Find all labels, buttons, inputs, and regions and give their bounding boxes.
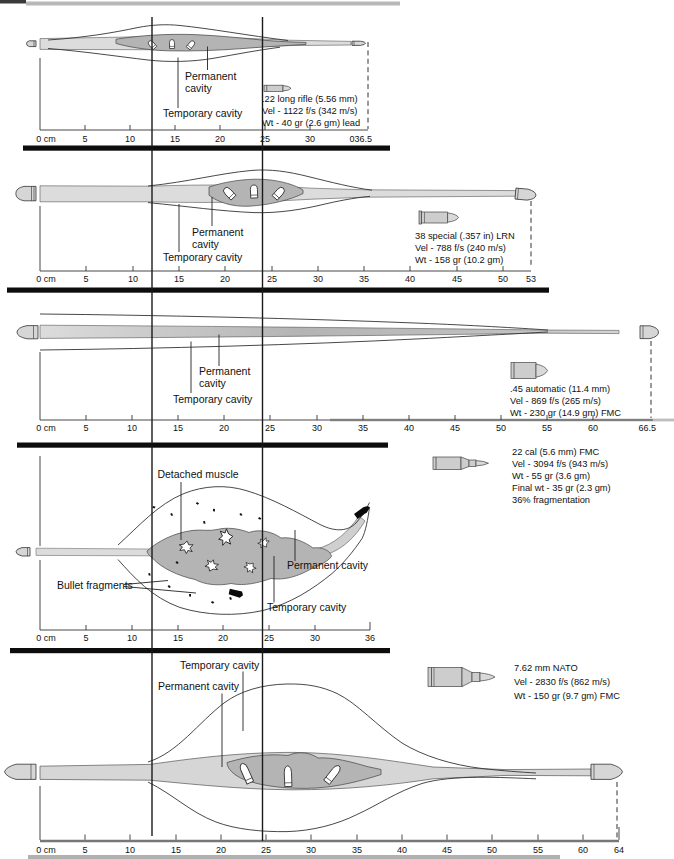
tick-label: 15 (173, 633, 183, 643)
tick-label: 0 cm (36, 274, 56, 284)
tick-label: 10 (125, 134, 135, 144)
tick-label: 20 (218, 633, 228, 643)
tick-label: 36 (365, 633, 375, 643)
tick-label: 25 (264, 633, 274, 643)
tick-label: 40 (397, 845, 407, 855)
caption-line: Final wt - 35 gr (2.3 gm) (512, 483, 611, 493)
permanent-cavity-label: cavity (192, 238, 220, 250)
tick-label: 25 (260, 134, 270, 144)
tick-label: 20 (216, 845, 226, 855)
caption-line: Vel - 869 f/s (265 m/s) (510, 396, 601, 406)
caption-line: Wt - 230 gr (14.9 gm) FMC (510, 408, 621, 418)
permanent-cavity-label: Permanent cavity (287, 559, 369, 571)
exit-bullet-icon (591, 764, 623, 779)
tick-label: 0 cm (36, 845, 56, 855)
scale-axis (40, 786, 619, 841)
tick-label: 5 (82, 134, 87, 144)
permanent-cavity-label: Permanent (192, 226, 243, 238)
tick-label: 10 (128, 274, 138, 284)
panel-separator-bar (17, 443, 388, 448)
tick-label: 66.5 (638, 423, 656, 433)
caption-line: Vel - 788 f/s (240 m/s) (415, 243, 506, 253)
tick-label: 60 (578, 845, 588, 855)
tick-label: 25 (267, 274, 277, 284)
cartridge-223-icon (433, 457, 489, 470)
exit-bullet-icon (515, 188, 536, 201)
tick-label: 50 (487, 845, 497, 855)
tick-label: 50 (496, 423, 506, 433)
caption-line: Wt - 40 gr (2.6 gm) lead (262, 118, 360, 128)
temporary-cavity-label: Temporary cavity (163, 107, 243, 119)
tick-label: 5 (82, 845, 87, 855)
tick-label: 45 (452, 274, 462, 284)
tick-label: 20 (220, 274, 230, 284)
tick-label: 60 (588, 423, 598, 433)
tick-label: 5 (83, 423, 88, 433)
tick-label: 30 (306, 845, 316, 855)
tick-label: 40 (405, 274, 415, 284)
tick-label: 5 (83, 274, 88, 284)
temporary-cavity-label: Temporary cavity (267, 601, 347, 613)
permanent-cavity-label: cavity (199, 377, 227, 389)
caption-line: 22 cal (5.6 mm) FMC (512, 447, 600, 457)
permanent-cavity-label: Permanent cavity (158, 680, 240, 692)
tick-label: 40 (404, 423, 414, 433)
permanent-cavity-label: cavity (185, 82, 213, 94)
bullet-fragments-label: Bullet fragments (57, 579, 133, 591)
tick-label: 30 (312, 423, 322, 433)
tick-label: 35 (352, 845, 362, 855)
caption-line: 36% fragmentation (512, 495, 590, 505)
panel-45-automatic (17, 314, 674, 448)
caption-line: Vel - 1122 f/s (342 m/s) (262, 106, 357, 116)
tick-label: 20 (219, 423, 229, 433)
bullet-fragment-large-icon (228, 588, 244, 599)
temporary-cavity-label: Temporary cavity (180, 659, 260, 671)
tick-label: 30 (310, 633, 320, 643)
entry-bullet-icon (5, 764, 37, 779)
tick-label: 10 (127, 633, 137, 643)
wound-profiles-figure: Permanent cavity Temporary cavity .22 lo… (0, 0, 674, 859)
caption-line: Vel - 2830 f/s (862 m/s) (514, 677, 610, 687)
tick-label: 25 (261, 845, 271, 855)
tick-label: 45 (442, 845, 452, 855)
tick-label: 15 (171, 845, 181, 855)
tick-label: 50 (498, 274, 508, 284)
tick-label: 15 (174, 274, 184, 284)
tick-label: 0 cm (36, 633, 56, 643)
tick-label: 55 (542, 423, 552, 433)
caption-line: Wt - 55 gr (3.6 gm) (512, 471, 590, 481)
tick-label: 53 (526, 274, 536, 284)
caption-line: .45 automatic (11.4 mm) (510, 384, 610, 394)
tick-label: 25 (265, 423, 275, 433)
tick-label: 10 (125, 845, 135, 855)
cartridge-22lr-icon (264, 85, 291, 91)
caption-line: Wt - 158 gr (10.2 gm) (415, 255, 503, 265)
tick-label: 5 (83, 633, 88, 643)
entry-bullet-icon (16, 548, 30, 556)
permanent-cavity-label: Permanent (185, 70, 236, 82)
entry-bullet-icon (16, 186, 36, 200)
top-left-dark-mark (0, 0, 26, 4)
caption-line: .22 long rifle (5.56 mm) (262, 94, 358, 104)
bottom-gray-rule (28, 855, 560, 859)
tick-label: 15 (173, 423, 183, 433)
figure-canvas: Permanent cavity Temporary cavity .22 lo… (0, 0, 674, 859)
panel-separator-bar (7, 288, 549, 293)
caption-line: Vel - 3094 f/s (943 m/s) (512, 459, 608, 469)
tick-label: 35 (358, 423, 368, 433)
exit-bullet-icon (352, 41, 366, 45)
tick-label: 55 (533, 845, 543, 855)
panel-separator-bar (10, 648, 390, 653)
tick-label: 64 (614, 845, 624, 855)
detached-muscle-label: Detached muscle (157, 468, 238, 480)
entry-bullet-icon (27, 41, 37, 47)
tick-label: 35 (359, 274, 369, 284)
panel-separator-bar (23, 146, 390, 151)
tick-label: 30 (313, 274, 323, 284)
tick-label: 45 (450, 423, 460, 433)
tick-label: 0 cm (36, 134, 56, 144)
tick-label: 30 (305, 134, 315, 144)
exit-bullet-icon (640, 326, 659, 339)
tick-label: 0 cm (36, 423, 56, 433)
permanent-cavity-label: Permanent (199, 365, 250, 377)
